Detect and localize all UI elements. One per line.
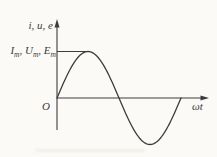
scan-artifact (35, 149, 145, 152)
x-axis-label: ωt (192, 100, 203, 112)
y-axis-arrow-icon (55, 19, 60, 28)
sine-wave-figure: i, u, e Im, Um, Em O ωt (0, 0, 217, 157)
y-axis-label: i, u, e (29, 19, 53, 31)
amplitude-term-u: Um (25, 44, 38, 56)
amplitude-label: Im, Um, Em (10, 44, 56, 56)
origin-label: O (42, 100, 50, 112)
amplitude-term-e: Em (44, 44, 56, 56)
